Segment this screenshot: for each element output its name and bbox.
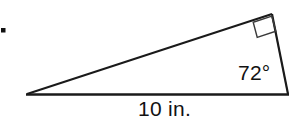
angle-measure-label: 72° bbox=[238, 62, 270, 83]
triangle-diagram: 72° 10 in. bbox=[0, 0, 298, 125]
list-bullet-icon bbox=[1, 28, 6, 33]
base-length-label: 10 in. bbox=[138, 98, 191, 119]
